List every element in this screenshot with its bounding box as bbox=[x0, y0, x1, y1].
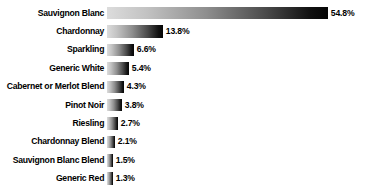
bar-area: 54.8% bbox=[107, 7, 368, 20]
category-label: Chardonnay Blend bbox=[6, 137, 107, 146]
bar bbox=[107, 44, 134, 57]
bar bbox=[107, 7, 328, 20]
value-label: 2.7% bbox=[118, 119, 140, 128]
bar-area: 3.8% bbox=[107, 99, 368, 112]
value-label: 2.1% bbox=[115, 137, 137, 146]
value-label: 54.8% bbox=[328, 9, 354, 18]
bar-area: 2.7% bbox=[107, 117, 368, 130]
chart-row: Sauvignon Blanc 54.8% bbox=[0, 4, 368, 22]
bar-area: 2.1% bbox=[107, 136, 368, 149]
category-label: Chardonnay bbox=[6, 27, 107, 36]
category-label: Sauvignon Blanc Blend bbox=[6, 156, 107, 165]
bar bbox=[107, 117, 118, 130]
chart-row: Pinot Noir 3.8% bbox=[0, 96, 368, 114]
bar-area: 6.6% bbox=[107, 44, 368, 57]
bar-area: 5.4% bbox=[107, 62, 368, 75]
bar-area: 1.3% bbox=[107, 172, 368, 185]
bar bbox=[107, 25, 163, 38]
chart-row: Cabernet or Merlot Blend 4.3% bbox=[0, 78, 368, 96]
bar bbox=[107, 99, 122, 112]
category-label: Cabernet or Merlot Blend bbox=[6, 82, 107, 91]
chart-row: Chardonnay 13.8% bbox=[0, 22, 368, 40]
value-label: 5.4% bbox=[129, 64, 151, 73]
category-label: Riesling bbox=[6, 119, 107, 128]
chart-row: Sparkling 6.6% bbox=[0, 41, 368, 59]
bar bbox=[107, 81, 124, 94]
value-label: 1.5% bbox=[113, 156, 135, 165]
value-label: 1.3% bbox=[113, 174, 135, 183]
value-label: 6.6% bbox=[134, 45, 156, 54]
bar bbox=[107, 62, 129, 75]
bar-area: 4.3% bbox=[107, 81, 368, 94]
bar-area: 1.5% bbox=[107, 154, 368, 167]
category-label: Pinot Noir bbox=[6, 101, 107, 110]
value-label: 4.3% bbox=[124, 82, 146, 91]
category-label: Sauvignon Blanc bbox=[6, 9, 107, 18]
chart-row: Chardonnay Blend 2.1% bbox=[0, 133, 368, 151]
value-label: 3.8% bbox=[122, 101, 144, 110]
category-label: Generic Red bbox=[6, 174, 107, 183]
bar-area: 13.8% bbox=[107, 25, 368, 38]
chart-row: Sauvignon Blanc Blend 1.5% bbox=[0, 151, 368, 169]
value-label: 13.8% bbox=[163, 27, 189, 36]
chart-row: Generic Red 1.3% bbox=[0, 170, 368, 188]
chart-row: Generic White 5.4% bbox=[0, 59, 368, 77]
bar-chart: Sauvignon Blanc 54.8% Chardonnay 13.8% S… bbox=[0, 0, 368, 189]
category-label: Generic White bbox=[6, 64, 107, 73]
chart-row: Riesling 2.7% bbox=[0, 114, 368, 132]
category-label: Sparkling bbox=[6, 45, 107, 54]
